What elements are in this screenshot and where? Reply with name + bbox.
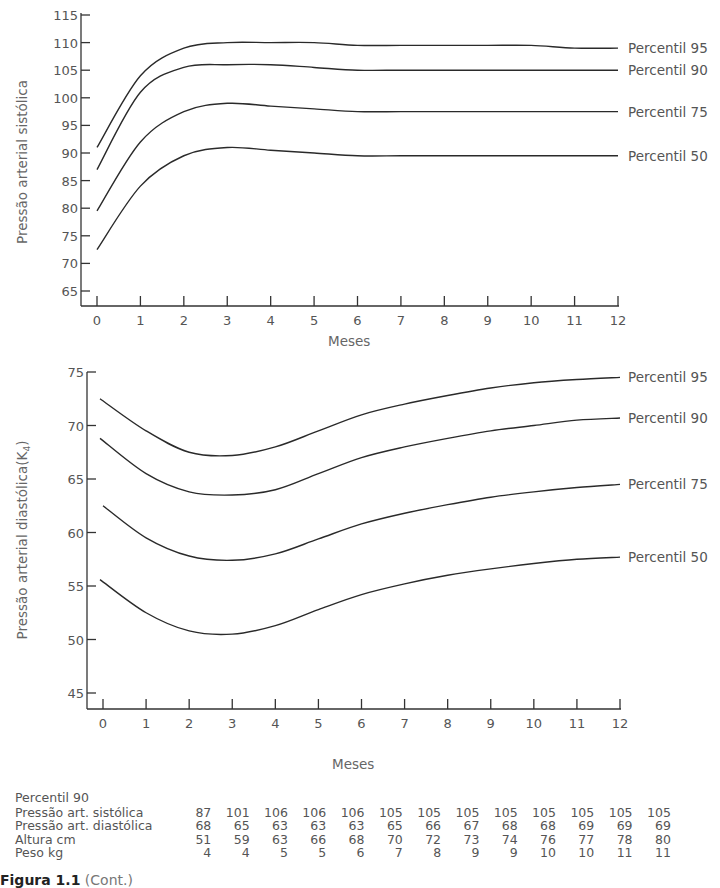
curve-percentil-50 (100, 557, 620, 634)
series-label: Percentil 90 (628, 410, 708, 426)
y-tick-label: 65 (67, 472, 84, 487)
table-cell: 105 (594, 806, 632, 820)
y-tick-label: 45 (67, 686, 84, 701)
y-tick-label: 60 (67, 526, 84, 541)
x-tick-label: 8 (444, 716, 452, 731)
table-cell: 4 (211, 846, 249, 860)
curve-percentil-95 (100, 377, 620, 456)
table-cell: 105 (633, 806, 671, 820)
y-tick-label: 75 (67, 365, 84, 380)
y-tick-label: 100 (53, 91, 78, 106)
lower-y-axis-title: Pressão arterial diastólica(K4) (14, 441, 32, 640)
x-tick-label: 12 (612, 716, 629, 731)
lower-y-axis-title-main: Pressão arterial diastólica(K (14, 450, 30, 639)
table-cell: 59 (211, 833, 249, 847)
table-cell: 9 (441, 846, 479, 860)
curve-percentil-95 (97, 42, 618, 147)
y-tick-label: 115 (53, 8, 78, 23)
x-tick-label: 3 (228, 716, 236, 731)
x-tick-label: 4 (267, 313, 275, 328)
x-tick-label: 1 (142, 716, 150, 731)
table-cell: 6 (326, 846, 364, 860)
x-tick-label: 1 (136, 313, 144, 328)
table-cell: 69 (556, 819, 594, 833)
upper-y-axis-title: Pressão arterial sistólica (14, 80, 30, 244)
x-tick-label: 10 (526, 716, 543, 731)
x-tick-label: 6 (357, 716, 365, 731)
curve-percentil-50 (97, 147, 618, 249)
lower-x-axis-title: Meses (332, 756, 374, 772)
table-cell: 66 (288, 833, 326, 847)
y-tick-label: 105 (53, 63, 78, 78)
table-cell: 11 (633, 846, 671, 860)
table-cell: 105 (403, 806, 441, 820)
curve-percentil-75 (97, 103, 618, 211)
figure-number: Figura 1.1 (0, 872, 80, 888)
table-cell: 7 (364, 846, 402, 860)
y-tick-label: 65 (61, 284, 78, 299)
diastolic-chart: 45505560657075 0123456789101112 Percenti… (14, 365, 708, 772)
table-cell: 5 (250, 846, 288, 860)
y-tick-label: 95 (61, 118, 78, 133)
table-cell: 72 (403, 833, 441, 847)
x-tick-label: 6 (353, 313, 361, 328)
table-cell: 51 (173, 833, 211, 847)
table-cell: 87 (173, 806, 211, 820)
table-cell: 63 (288, 819, 326, 833)
row-label: Pressão art. diastólica (15, 819, 173, 833)
figure-continuation: (Cont.) (85, 872, 133, 888)
table-cell: 105 (556, 806, 594, 820)
curve-percentil-90 (100, 418, 620, 495)
series-label: Percentil 75 (628, 476, 708, 492)
table-cell: 10 (556, 846, 594, 860)
table-cell: 106 (250, 806, 288, 820)
table-cell: 63 (250, 819, 288, 833)
table-row: Altura cm51596366687072737476777880 (15, 833, 671, 847)
table-cell: 66 (403, 819, 441, 833)
y-tick-label: 70 (67, 419, 84, 434)
table-cell: 78 (594, 833, 632, 847)
systolic-chart: 65707580859095100105110115 0123456789101… (14, 8, 708, 349)
x-tick-label: 10 (523, 313, 540, 328)
table-cell: 65 (364, 819, 402, 833)
table-cell: 101 (211, 806, 249, 820)
table-cell: 73 (441, 833, 479, 847)
table-cell: 63 (326, 819, 364, 833)
percentile-90-table: Percentil 90 Pressão art. sistólica87101… (15, 791, 671, 860)
table-cell: 4 (173, 846, 211, 860)
table-heading: Percentil 90 (15, 791, 671, 806)
table-cell: 105 (479, 806, 517, 820)
table-cell: 63 (250, 833, 288, 847)
table-cell: 70 (364, 833, 402, 847)
y-tick-label: 50 (67, 633, 84, 648)
x-tick-label: 7 (400, 716, 408, 731)
table-cell: 69 (633, 819, 671, 833)
x-tick-label: 4 (271, 716, 279, 731)
table-cell: 106 (326, 806, 364, 820)
lower-y-axis-title-close: ) (14, 441, 30, 446)
table-cell: 74 (479, 833, 517, 847)
y-tick-label: 70 (61, 256, 78, 271)
y-tick-label: 55 (67, 579, 84, 594)
table-cell: 76 (518, 833, 556, 847)
series-label: Percentil 50 (628, 148, 708, 164)
table-cell: 9 (479, 846, 517, 860)
figure-caption: Figura 1.1 (Cont.) (0, 872, 133, 888)
x-tick-label: 5 (310, 313, 318, 328)
curve-percentil-75 (103, 484, 620, 560)
x-tick-label: 5 (314, 716, 322, 731)
table-cell: 8 (403, 846, 441, 860)
x-tick-label: 7 (397, 313, 405, 328)
table-cell: 106 (288, 806, 326, 820)
x-tick-label: 3 (223, 313, 231, 328)
table-cell: 67 (441, 819, 479, 833)
series-label: Percentil 95 (628, 369, 708, 385)
curve-percentil-90 (97, 64, 618, 169)
table-row: Peso kg44556789910101111 (15, 846, 671, 860)
table-cell: 68 (518, 819, 556, 833)
percentile-charts: 65707580859095100105110115 0123456789101… (0, 0, 720, 888)
table-cell: 77 (556, 833, 594, 847)
x-tick-label: 9 (484, 313, 492, 328)
table-row: Pressão art. sistólica871011061061061051… (15, 806, 671, 820)
y-tick-label: 80 (61, 201, 78, 216)
